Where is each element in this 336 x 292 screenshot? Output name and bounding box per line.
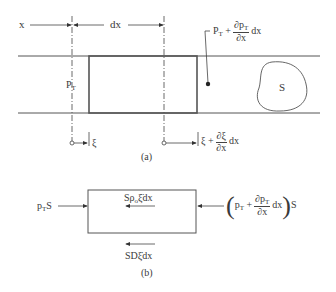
diagram-canvas [0,0,336,292]
pressure-left-label: PT [66,80,76,92]
damping-force-label: SDξ̇dx [125,251,152,261]
pressure-leader [205,31,210,86]
force-arrows [58,206,224,244]
caption-a: (a) [141,152,152,162]
area-label: S [279,82,285,93]
x-label: x [19,19,25,30]
fluid-element [89,56,197,113]
displacement-arrows [70,132,198,146]
inertia-force-label: Sρoξ̈dx [124,193,153,205]
force-right-label: (pT +∂pT∂xdx)S [226,193,297,219]
displacement-left-label: ξ [92,138,96,148]
pressure-right-label: PT +∂pT∂xdx [213,20,261,44]
caption-b: (b) [141,268,153,278]
dx-label: dx [110,19,121,30]
force-left-label: pTS [37,201,52,213]
reference-lines [72,16,164,142]
displacement-right-label: ξ +∂ξ∂xdx [201,131,239,153]
pipe-walls [18,56,320,113]
